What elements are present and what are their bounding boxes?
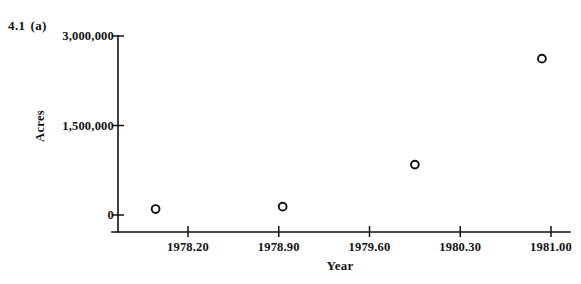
figure-root: 4.1(a) 01,500,0003,000,0001978.201978.90… <box>0 0 581 284</box>
x-tick-label: 1978.90 <box>258 240 300 255</box>
data-point-marker <box>538 55 546 63</box>
data-point-marker <box>411 161 419 169</box>
data-point-marker <box>152 205 160 213</box>
x-tick-label: 1979.60 <box>348 240 390 255</box>
x-tick-label: 1981.00 <box>530 240 572 255</box>
y-tick-label: 3,000,000 <box>62 29 114 44</box>
y-tick-label: 1,500,000 <box>62 118 114 133</box>
data-point-marker <box>279 203 287 211</box>
scatter-plot: 01,500,0003,000,0001978.201978.901979.60… <box>0 0 581 284</box>
x-axis-title: Year <box>326 258 353 274</box>
x-tick-label: 1980.30 <box>439 240 481 255</box>
x-tick-label: 1978.20 <box>167 240 209 255</box>
y-tick-label: 0 <box>108 208 114 223</box>
y-axis-title: Acres <box>33 110 48 142</box>
